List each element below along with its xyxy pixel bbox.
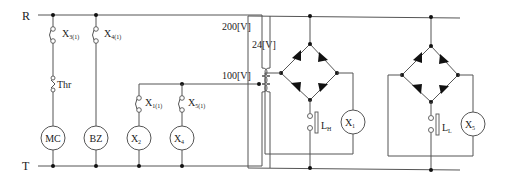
bridge-rectifier-icon: [400, 44, 460, 104]
rectifier-circuit-1: LH X1: [265, 14, 365, 170]
thr-label: Thr: [57, 79, 72, 90]
rail-label-r: R: [22, 9, 30, 23]
electrode-label-ll: LL: [442, 122, 452, 134]
coil-label-mc: MC: [45, 133, 61, 144]
coil-label-bz: BZ: [90, 133, 103, 144]
electrode-ll-icon: [429, 116, 434, 121]
electrode-lh-icon: [308, 114, 313, 119]
thermal-relay-icon: [51, 76, 55, 92]
contact-label-x: X4(1): [104, 28, 121, 41]
voltage-200v: 200[V]: [222, 21, 251, 32]
bridge-rectifier-icon: [279, 42, 339, 102]
branch-x4: X5(1) X4: [170, 84, 205, 168]
branch-mc: X3(1) Thr MC: [41, 13, 79, 168]
voltage-24v: 24[V]: [252, 39, 276, 50]
circuit-diagram: R T X3(1) Thr MC: [0, 0, 513, 186]
contact-label-x: X5(1): [188, 97, 205, 110]
branch-x2: X1(1) X2: [127, 84, 162, 168]
transformer-icon: [262, 68, 270, 92]
voltage-100v: 100[V]: [222, 70, 251, 81]
contact-x3-1-icon: [51, 27, 56, 32]
rectifier-circuit-2: LL X5: [388, 15, 485, 172]
electrode-label-lh: LH: [321, 120, 332, 132]
branch-bz: X4(1) BZ: [84, 13, 121, 168]
contact-label-x: X3(1): [62, 28, 79, 41]
contact-label-x: X1(1): [145, 97, 162, 110]
secondary-rails: [248, 16, 460, 170]
rail-label-t: T: [22, 159, 30, 173]
